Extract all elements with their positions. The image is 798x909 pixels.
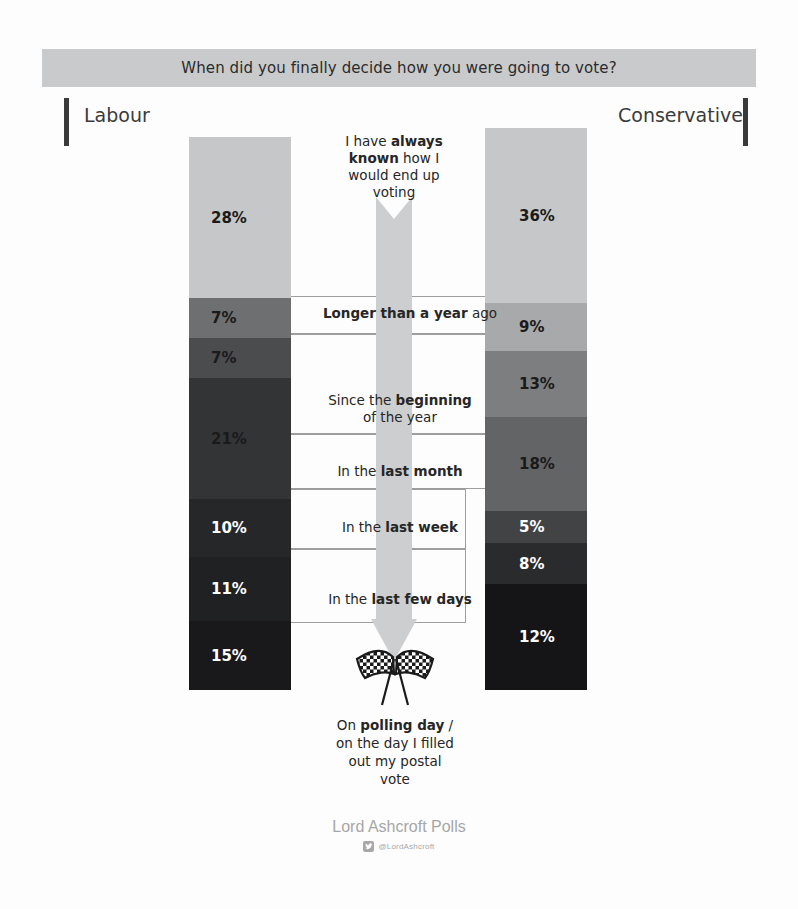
- value-conservative-since-beginning: 13%: [485, 375, 555, 393]
- band-labour-since-beginning: 7%: [189, 338, 291, 378]
- band-conservative-always-known: 36%: [485, 128, 587, 303]
- value-labour-last-month: 21%: [189, 430, 247, 448]
- band-labour-last-month: 21%: [189, 378, 291, 499]
- category-label-longer-than-a-year: Longer than a year ago: [300, 305, 520, 322]
- value-labour-polling-day: 15%: [189, 647, 247, 665]
- category-label-polling-day: On polling day /on the day I filledout m…: [305, 716, 485, 788]
- band-labour-longer-than-a-year: 7%: [189, 298, 291, 338]
- value-labour-longer-than-a-year: 7%: [189, 309, 236, 327]
- value-conservative-always-known: 36%: [485, 207, 555, 225]
- labour-column: 28% 7% 7% 21% 10% 11% 15%: [189, 137, 291, 690]
- party-label-labour: Labour: [84, 104, 150, 126]
- category-label-always-known: I have always known how I would end up v…: [330, 133, 458, 201]
- value-conservative-polling-day: 12%: [485, 628, 555, 646]
- footer-twitter-handle[interactable]: @LordAshcroft: [378, 842, 434, 851]
- band-labour-always-known: 28%: [189, 137, 291, 298]
- band-conservative-last-month: 18%: [485, 417, 587, 511]
- category-label-last-few-days: In the last few days: [295, 591, 505, 608]
- band-conservative-since-beginning: 13%: [485, 351, 587, 417]
- value-labour-last-week: 10%: [189, 519, 247, 537]
- value-conservative-last-few-days: 8%: [485, 555, 544, 573]
- party-label-conservative: Conservative: [618, 104, 743, 126]
- band-conservative-last-few-days: 8%: [485, 543, 587, 584]
- value-labour-always-known: 28%: [189, 209, 247, 227]
- value-labour-last-few-days: 11%: [189, 580, 247, 598]
- twitter-bird-icon[interactable]: [363, 841, 374, 852]
- band-labour-last-few-days: 11%: [189, 557, 291, 621]
- band-labour-polling-day: 15%: [189, 621, 291, 690]
- checkered-flags-icon: [349, 645, 441, 707]
- labour-rule: [64, 98, 69, 146]
- category-label-since-beginning: Since the beginningof the year: [300, 392, 500, 426]
- footer-brand: Lord Ashcroft Polls: [0, 818, 798, 836]
- conservative-rule: [743, 98, 748, 146]
- band-conservative-last-week: 5%: [485, 511, 587, 543]
- category-label-last-week: In the last week: [300, 519, 500, 536]
- value-labour-since-beginning: 7%: [189, 349, 236, 367]
- category-label-last-month: In the last month: [300, 463, 500, 480]
- band-labour-last-week: 10%: [189, 499, 291, 557]
- page-title: When did you finally decide how you were…: [181, 59, 616, 77]
- infographic-page: When did you finally decide how you were…: [0, 0, 798, 909]
- title-banner: When did you finally decide how you were…: [42, 49, 756, 87]
- footer: Lord Ashcroft Polls @LordAshcroft: [0, 818, 798, 852]
- footer-handle-row[interactable]: @LordAshcroft: [0, 841, 798, 852]
